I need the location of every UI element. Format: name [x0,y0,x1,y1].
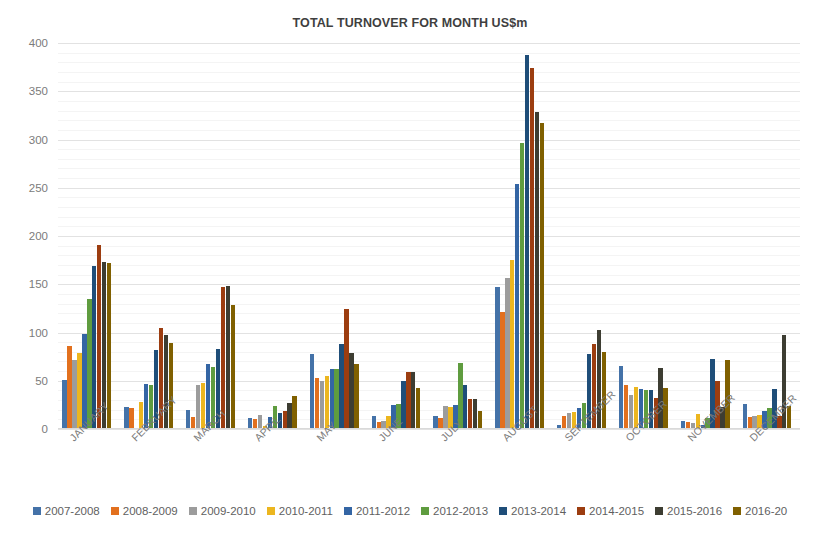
bar-group [743,43,792,429]
legend-label: 2008-2009 [123,505,178,517]
y-axis-tick-label: 150 [4,278,48,290]
bar [349,353,353,429]
legend-item[interactable]: 2015-2016 [655,505,722,517]
y-axis-tick-label: 250 [4,182,48,194]
bar-group [62,43,111,429]
bar [433,416,437,430]
bar [520,143,524,429]
bar [315,378,319,429]
bar [624,385,628,429]
bar [619,366,623,429]
chart-container: TOTAL TURNOVER FOR MONTH US$m 4003503002… [0,0,820,549]
bar [72,360,76,429]
y-axis-tick-label: 300 [4,134,48,146]
bar-group [495,43,544,429]
bar [468,399,472,429]
bar [540,123,544,429]
bar [515,184,519,429]
bar [221,287,225,429]
bar [226,286,230,429]
bar-group [372,43,421,429]
bar [510,260,514,429]
legend-item[interactable]: 2010-2011 [267,505,333,517]
plot-wrapper: 400350300250200150100500 [0,0,820,470]
bar [525,55,529,429]
legend-item[interactable]: 2016-20 [733,505,787,517]
bar [530,68,534,429]
legend-swatch-icon [577,507,585,515]
bar [292,396,296,429]
y-axis-tick-label: 200 [4,230,48,242]
bar [495,287,499,429]
bar [124,407,128,429]
plot-area [58,43,800,429]
legend-swatch-icon [111,507,119,515]
legend-label: 2007-2008 [45,505,100,517]
y-axis-tick-label: 100 [4,327,48,339]
bar [411,372,415,429]
bar [500,312,504,429]
chart-legend: 2007-20082008-20092009-20102010-20112011… [0,505,820,517]
bar [406,372,410,429]
legend-label: 2013-2014 [511,505,566,517]
bar [505,278,509,430]
legend-item[interactable]: 2014-2015 [577,505,644,517]
legend-swatch-icon [655,507,663,515]
legend-item[interactable]: 2007-2008 [33,505,100,517]
legend-item[interactable]: 2009-2010 [189,505,256,517]
x-axis-tick-labels: JANUARYFEBRUARYMARCHAPRILMAYJUNEJULYAUGU… [0,429,820,499]
legend-label: 2009-2010 [201,505,256,517]
legend-swatch-icon [499,507,507,515]
y-axis-tick-label: 400 [4,37,48,49]
bar [743,404,747,429]
bar [478,411,482,429]
bar [416,388,420,429]
legend-swatch-icon [421,507,429,515]
bar [334,369,338,429]
bar [310,354,314,429]
legend-label: 2016-20 [745,505,787,517]
bar-group [248,43,297,429]
bar [535,112,539,429]
legend-swatch-icon [344,507,352,515]
legend-item[interactable]: 2011-2012 [344,505,410,517]
legend-item[interactable]: 2008-2009 [111,505,178,517]
legend-swatch-icon [267,507,275,515]
bar-group [681,43,730,429]
bar [287,403,291,429]
legend-label: 2012-2013 [433,505,488,517]
bar [344,309,348,429]
y-axis-tick-label: 50 [4,375,48,387]
bar [231,305,235,429]
bar-group [433,43,482,429]
bar [62,380,66,429]
bar [320,381,324,429]
bar-group [310,43,359,429]
bar [283,411,287,429]
bar [196,385,200,429]
legend-label: 2014-2015 [589,505,644,517]
legend-item[interactable]: 2012-2013 [421,505,488,517]
bar [169,343,173,429]
bar-group [186,43,235,429]
bar-group [619,43,668,429]
legend-swatch-icon [33,507,41,515]
bar [473,399,477,429]
bar [129,408,133,429]
bar [77,353,81,429]
bar [463,385,467,429]
bar [562,416,566,430]
legend-swatch-icon [189,507,197,515]
legend-item[interactable]: 2013-2014 [499,505,566,517]
bar-group [124,43,173,429]
legend-label: 2011-2012 [356,505,410,517]
legend-label: 2015-2016 [667,505,722,517]
bar [372,416,376,430]
bar [339,344,343,429]
bar [354,364,358,429]
bar [186,410,190,429]
bar [67,346,71,429]
y-axis-tick-label: 350 [4,85,48,97]
bar-group [557,43,606,429]
legend-label: 2010-2011 [279,505,333,517]
